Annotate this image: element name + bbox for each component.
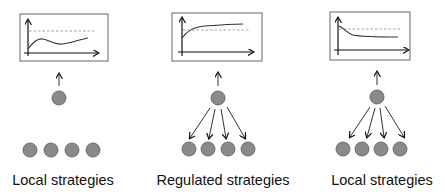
- down-arrow-icon: [385, 106, 404, 137]
- agent-node: [393, 142, 407, 156]
- central-node: [370, 90, 384, 104]
- panel-local-left: Local strategies: [12, 14, 114, 188]
- agent-node: [355, 142, 369, 156]
- agent-node: [86, 143, 100, 157]
- down-arrow-icon: [221, 109, 226, 138]
- down-arrow-icon: [209, 109, 215, 138]
- panel-label: Local strategies: [12, 172, 114, 188]
- down-arrow-icon: [190, 108, 210, 138]
- agent-node: [336, 142, 350, 156]
- panel-label: Regulated strategies: [157, 172, 290, 188]
- agent-node: [44, 143, 58, 157]
- down-arrow-icon: [227, 107, 245, 138]
- agent-node: [182, 142, 196, 156]
- agent-node: [23, 143, 37, 157]
- regulation-arrows: [350, 106, 404, 137]
- panel-label: Local strategies: [331, 172, 433, 188]
- plot-box: [172, 13, 262, 61]
- plot-box: [20, 14, 108, 61]
- strategy-diagram: Local strategies Regulated strategies: [0, 0, 445, 194]
- central-node: [52, 91, 66, 105]
- agent-node: [374, 142, 388, 156]
- agent-nodes: [336, 142, 407, 156]
- regulation-arrows: [190, 107, 245, 138]
- agent-node: [65, 143, 79, 157]
- down-arrow-icon: [350, 107, 370, 137]
- down-arrow-icon: [367, 108, 375, 137]
- agent-node: [201, 142, 215, 156]
- down-arrow-icon: [380, 108, 384, 137]
- agent-node: [221, 142, 235, 156]
- central-node: [211, 91, 225, 105]
- agent-nodes: [182, 142, 255, 156]
- agent-nodes: [23, 143, 100, 157]
- panel-regulated: Regulated strategies: [157, 13, 290, 188]
- panel-local-right: Local strategies: [330, 12, 433, 188]
- agent-node: [241, 142, 255, 156]
- plot-box: [330, 12, 410, 60]
